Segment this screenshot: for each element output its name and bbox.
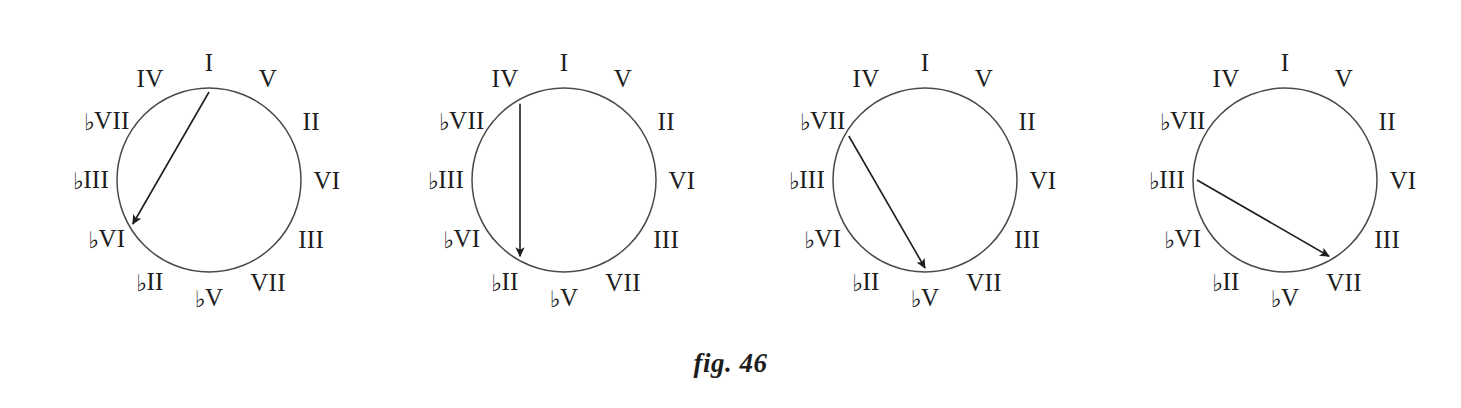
degree-label-flat-VII: ♭VII: [439, 108, 485, 134]
degree-label-flat-II: ♭II: [491, 269, 518, 295]
degree-label-III: III: [298, 227, 324, 252]
degree-numeral: V: [560, 284, 578, 311]
degree-label-III: III: [1374, 227, 1400, 252]
degree-label-flat-III: ♭III: [428, 167, 464, 193]
degree-numeral: II: [146, 268, 163, 295]
degree-numeral: VI: [814, 225, 841, 252]
degree-label-IV: IV: [492, 65, 519, 90]
clock-diagram-4: IVIIVIIIIVII♭V♭II♭VI♭III♭VIIIV: [1076, 0, 1441, 340]
tritone-arrow: [133, 92, 209, 224]
degree-label-VII: VII: [966, 270, 1002, 295]
degree-label-IV: IV: [137, 65, 164, 90]
degree-label-II: II: [658, 109, 675, 134]
degree-numeral: II: [1222, 268, 1239, 295]
degree-label-V: V: [1335, 65, 1353, 90]
degree-numeral: V: [205, 284, 223, 311]
degree-numeral: VII: [94, 107, 130, 134]
clock-diagram-1: IVIIVIIIIVII♭V♭II♭VI♭III♭VIIIV: [0, 0, 365, 340]
figure-46: IVIIVIIIIVII♭V♭II♭VI♭III♭VIIIVIVIIVIIIIV…: [0, 0, 1461, 408]
degree-numeral: II: [862, 268, 879, 295]
degree-label-flat-II: ♭II: [136, 269, 163, 295]
degree-numeral: V: [1281, 284, 1299, 311]
tritone-arrow: [1197, 180, 1329, 256]
degree-label-flat-V: ♭V: [195, 285, 224, 311]
degree-label-I: I: [560, 50, 569, 75]
clock-rim-circle: [833, 88, 1017, 272]
degree-label-flat-II: ♭II: [852, 269, 879, 295]
degree-label-VI: VI: [669, 168, 696, 193]
degree-label-V: V: [259, 65, 277, 90]
degree-label-flat-V: ♭V: [550, 285, 579, 311]
degree-label-flat-III: ♭III: [789, 167, 825, 193]
clock-rim-circle: [1193, 88, 1377, 272]
degree-label-VII: VII: [250, 270, 286, 295]
degree-label-VI: VI: [1390, 168, 1417, 193]
degree-label-VI: VI: [1030, 168, 1057, 193]
degree-label-II: II: [1019, 109, 1036, 134]
degree-label-III: III: [653, 227, 679, 252]
degree-numeral: III: [799, 166, 825, 193]
clock-face-graphics: [1076, 0, 1441, 340]
degree-label-I: I: [921, 50, 930, 75]
degree-numeral: VII: [449, 107, 485, 134]
degree-label-II: II: [1379, 109, 1396, 134]
degree-label-flat-VI: ♭VI: [804, 226, 841, 252]
degree-numeral: III: [438, 166, 464, 193]
degree-label-flat-III: ♭III: [1149, 167, 1185, 193]
tritone-arrow: [849, 136, 925, 268]
degree-numeral: VII: [810, 107, 846, 134]
degree-numeral: III: [1159, 166, 1185, 193]
degree-label-flat-V: ♭V: [911, 285, 940, 311]
degree-label-flat-II: ♭II: [1212, 269, 1239, 295]
degree-numeral: V: [921, 284, 939, 311]
clock-diagram-2: IVIIVIIIIVII♭V♭II♭VI♭III♭VIIIV: [355, 0, 720, 340]
degree-label-VI: VI: [314, 168, 341, 193]
clock-face-graphics: [0, 0, 365, 340]
degree-label-flat-VI: ♭VI: [88, 226, 125, 252]
degree-numeral: VI: [453, 225, 480, 252]
degree-label-I: I: [1281, 50, 1290, 75]
degree-numeral: VII: [1170, 107, 1206, 134]
degree-numeral: VI: [1174, 225, 1201, 252]
degree-label-V: V: [614, 65, 632, 90]
degree-label-flat-VII: ♭VII: [800, 108, 846, 134]
degree-label-II: II: [303, 109, 320, 134]
degree-label-flat-VII: ♭VII: [84, 108, 130, 134]
clock-diagram-3: IVIIVIIIIVII♭V♭II♭VI♭III♭VIIIV: [716, 0, 1081, 340]
degree-label-IV: IV: [1213, 65, 1240, 90]
degree-numeral: III: [83, 166, 109, 193]
degree-label-VII: VII: [1326, 270, 1362, 295]
degree-label-III: III: [1014, 227, 1040, 252]
degree-label-flat-VI: ♭VI: [443, 226, 480, 252]
degree-label-V: V: [975, 65, 993, 90]
degree-label-flat-VI: ♭VI: [1164, 226, 1201, 252]
figure-caption: fig. 46: [0, 348, 1461, 379]
degree-label-flat-V: ♭V: [1271, 285, 1300, 311]
degree-label-IV: IV: [853, 65, 880, 90]
degree-numeral: II: [501, 268, 518, 295]
clock-face-graphics: [716, 0, 1081, 340]
clock-face-graphics: [355, 0, 720, 340]
degree-label-flat-III: ♭III: [73, 167, 109, 193]
degree-numeral: VI: [98, 225, 125, 252]
degree-label-I: I: [205, 50, 214, 75]
clock-rim-circle: [117, 88, 301, 272]
degree-label-flat-VII: ♭VII: [1160, 108, 1206, 134]
clock-rim-circle: [472, 88, 656, 272]
degree-label-VII: VII: [605, 270, 641, 295]
